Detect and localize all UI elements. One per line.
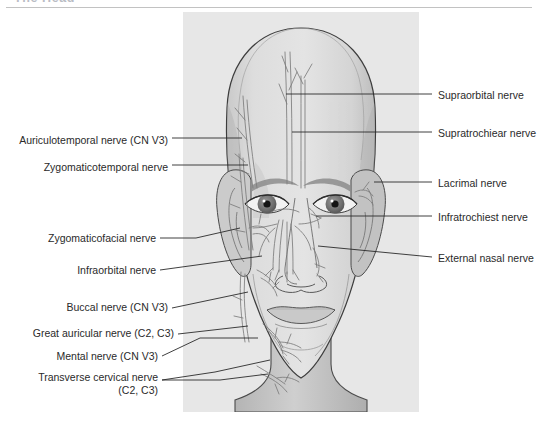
label-text: Infratrochiest nerve	[438, 211, 528, 223]
ear-right	[351, 170, 385, 277]
label-text: Supraorbital nerve	[438, 89, 524, 101]
label-text: Supratrochiear nerve	[438, 127, 536, 139]
label-text: Auriculotemporal nerve (CN V3)	[19, 134, 168, 146]
head-illustration	[183, 12, 419, 412]
header-divider	[6, 7, 532, 8]
label-text: Zygomaticotemporal nerve	[44, 161, 168, 173]
label-buccal: Buccal nerve (CN V3)	[0, 301, 168, 314]
label-lacrimal: Lacrimal nerve	[438, 177, 507, 190]
label-zygomaticotemporal: Zygomaticotemporal nerve	[0, 161, 168, 174]
label-infratrochlear: Infratrochiest nerve	[438, 211, 528, 224]
illustration-panel	[183, 12, 419, 412]
ear-left	[217, 170, 251, 277]
label-text: Great auricular nerve (C2, C3)	[33, 327, 174, 339]
label-transverse-cervical: Transverse cervical nerve (C2, C3)	[0, 371, 158, 396]
nerve-great-auricular	[233, 272, 249, 342]
label-external-nasal: External nasal nerve	[438, 252, 534, 265]
label-great-auricular: Great auricular nerve (C2, C3)	[0, 327, 174, 340]
label-subtext: (C2, C3)	[0, 384, 158, 397]
label-text: Buccal nerve (CN V3)	[66, 301, 168, 313]
label-infraorbital: Infraorbital nerve	[0, 264, 156, 277]
label-text: Zygomaticofacial nerve	[48, 232, 156, 244]
label-auriculotemporal: Auriculotemporal nerve (CN V3)	[0, 134, 168, 147]
page-header-title: The Head	[14, 0, 75, 5]
label-text: Infraorbital nerve	[77, 264, 156, 276]
label-text: Lacrimal nerve	[438, 177, 507, 189]
label-text: Mental nerve (CN V3)	[56, 350, 158, 362]
label-supratrochlear: Supratrochiear nerve	[438, 127, 536, 140]
label-supraorbital: Supraorbital nerve	[438, 89, 524, 102]
page-header: The Head	[0, 0, 538, 10]
figure-page: The Head	[0, 0, 538, 432]
label-mental: Mental nerve (CN V3)	[0, 350, 158, 363]
label-text: External nasal nerve	[438, 252, 534, 264]
label-zygomaticofacial: Zygomaticofacial nerve	[0, 232, 156, 245]
label-text: Transverse cervical nerve	[38, 371, 158, 383]
